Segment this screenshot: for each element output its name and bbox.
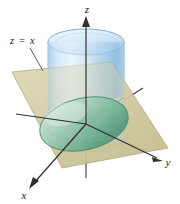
plane-equation-equals: =	[19, 35, 25, 46]
plane-equation-z: z	[9, 35, 14, 46]
axis-y-arrowhead	[152, 157, 163, 162]
math-figure-cylinder-plane: z y x z = x	[0, 0, 180, 204]
figure-canvas: z y x z = x	[0, 0, 180, 204]
plane-equation-x: x	[29, 35, 35, 46]
axis-z-arrowhead	[82, 16, 90, 27]
axis-y-label: y	[165, 156, 171, 168]
plane-equation-label: z = x	[9, 35, 35, 46]
axis-z-label: z	[84, 3, 90, 15]
axis-x-label: x	[21, 189, 27, 201]
leader-line	[30, 48, 43, 71]
plane-label-leader-line	[30, 48, 43, 71]
